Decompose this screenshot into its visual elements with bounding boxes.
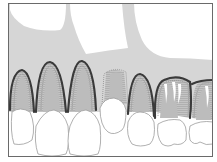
teeth-illustration xyxy=(0,0,217,162)
crown-5 xyxy=(128,112,155,146)
crown-7 xyxy=(189,122,213,145)
crown-1 xyxy=(11,109,33,145)
dental-diagram xyxy=(0,0,217,162)
crown-6 xyxy=(158,120,187,147)
